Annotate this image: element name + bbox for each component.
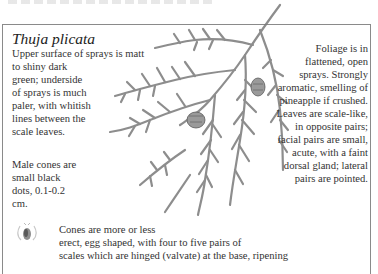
- cones-description: Cones are more or less erect, egg shaped…: [59, 223, 349, 262]
- cones-line2: erect, egg shaped, with four to five pai…: [59, 236, 349, 249]
- male-cones-description: Male cones are small black dots, 0.1-0.2…: [12, 158, 82, 210]
- upper-surface-rest: to shiny dark green; underside of sprays…: [12, 60, 92, 138]
- foliage-description: Foliage is in flattened, open sprays. St…: [276, 42, 368, 185]
- upper-surface-description: Upper surface of sprays is matt to shiny…: [12, 47, 172, 138]
- upper-surface-line1: Upper surface of sprays is matt: [12, 47, 172, 60]
- cones-line3: scales which are hinged (valvate) at the…: [59, 249, 349, 262]
- cone-icon: [16, 220, 38, 244]
- cones-line1: Cones are more or less: [59, 223, 349, 236]
- species-name: Thuja plicata: [12, 30, 95, 48]
